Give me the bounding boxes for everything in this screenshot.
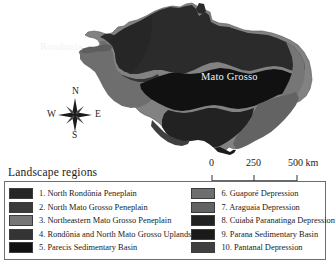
legend-swatch-10 (191, 242, 215, 253)
legend-label-6: 6. Guaporé Depression (221, 189, 298, 198)
compass-rose: N E S W (42, 86, 108, 144)
legend-swatch-1 (9, 188, 33, 199)
legend-label-4: 4. Rondônia and North Mato Grosso Upland… (39, 230, 191, 239)
legend-swatch-7 (191, 202, 215, 213)
legend-item-10[interactable]: 10. Pantanal Depression (191, 241, 322, 254)
legend-column-right: 6. Guaporé Depression 7. Araguaia Depres… (191, 187, 322, 254)
legend-swatch-3 (9, 215, 33, 226)
map-panel: Rondonia Mato Grosso N E S W (0, 0, 331, 163)
legend-item-5[interactable]: 5. Parecis Sedimentary Basin (9, 241, 191, 254)
legend-item-1[interactable]: 1. North Rondônia Peneplain (9, 187, 191, 200)
legend-item-8[interactable]: 8. Cuiabá Paranatinga Depression (191, 214, 322, 227)
legend-swatch-4 (9, 229, 33, 240)
legend-label-10: 10. Pantanal Depression (221, 243, 302, 252)
legend-label-5: 5. Parecis Sedimentary Basin (39, 243, 137, 252)
legend-item-9[interactable]: 9. Parana Sedimentary Basin (191, 228, 322, 241)
legend-label-1: 1. North Rondônia Peneplain (39, 189, 137, 198)
compass-east-label: E (95, 109, 101, 119)
map-region-layer (79, 3, 312, 155)
compass-north-label: N (72, 86, 79, 96)
legend-swatch-8 (191, 215, 215, 226)
legend-label-8: 8. Cuiabá Paranatinga Depression (221, 216, 335, 225)
legend-title: Landscape regions (4, 166, 326, 181)
legend-label-7: 7. Araguaia Depression (221, 203, 299, 212)
legend-item-7[interactable]: 7. Araguaia Depression (191, 201, 322, 214)
legend-item-3[interactable]: 3. Northeastern Mato Grosso Peneplain (9, 214, 191, 227)
legend-swatch-5 (9, 242, 33, 253)
legend-box: 1. North Rondônia Peneplain 2. North Mat… (4, 181, 326, 260)
legend-label-9: 9. Parana Sedimentary Basin (221, 230, 318, 239)
legend-item-6[interactable]: 6. Guaporé Depression (191, 187, 322, 200)
legend-swatch-9 (191, 229, 215, 240)
legend-swatch-2 (9, 202, 33, 213)
legend-swatch-6 (191, 188, 215, 199)
legend-item-2[interactable]: 2. North Mato Grosso Peneplain (9, 201, 191, 214)
legend-label-2: 2. North Mato Grosso Peneplain (39, 203, 148, 212)
legend-label-3: 3. Northeastern Mato Grosso Peneplain (39, 216, 171, 225)
map-legend: Landscape regions 1. North Rondônia Pene… (4, 166, 326, 260)
legend-item-4[interactable]: 4. Rondônia and North Mato Grosso Upland… (9, 228, 191, 241)
legend-column-left: 1. North Rondônia Peneplain 2. North Mat… (9, 187, 191, 254)
compass-south-label: S (72, 130, 77, 140)
compass-west-label: W (47, 109, 56, 119)
